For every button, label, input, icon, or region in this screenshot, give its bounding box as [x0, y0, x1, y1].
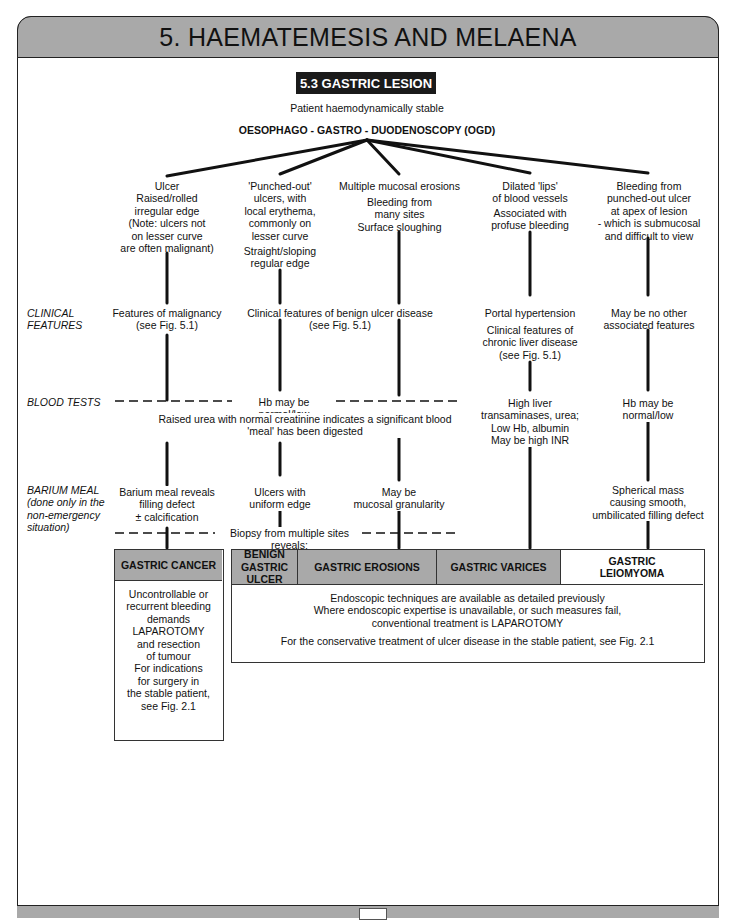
clinical-cancer: Features of malignancy (see Fig. 5.1) [97, 307, 237, 332]
clinical-varices-liver: Clinical features of chronic liver disea… [465, 324, 595, 361]
management-cancer: Uncontrollable or recurrent bleeding dem… [115, 588, 222, 712]
blood-varices: High liver transaminases, urea; Low Hb, … [460, 397, 600, 447]
management-shared-main: Endoscopic techniques are available as d… [232, 592, 703, 629]
blood-urea-shared: Raised urea with normal creatinine indic… [125, 413, 485, 438]
clinical-varices-portal: Portal hypertension [465, 307, 595, 319]
label-blood-tests: BLOOD TESTS [27, 396, 101, 408]
clinical-benign: Clinical features of benign ulcer diseas… [240, 307, 440, 332]
diagnosis-gastric-leiomyoma: GASTRIC LEIOMYOMA [561, 550, 703, 585]
finding-erosions-detail: Bleeding from many sites Surface sloughi… [337, 196, 462, 233]
blood-leiomyoma: Hb may be normal/low [598, 397, 698, 422]
gastric-cancer-box: GASTRIC CANCER Uncontrollable or recurre… [114, 549, 224, 741]
management-shared-note: For the conservative treatment of ulcer … [232, 635, 703, 647]
finding-varices: Dilated 'lips' of blood vessels [470, 180, 590, 205]
shared-management-box: BENIGN GASTRIC ULCER GASTRIC EROSIONS GA… [231, 549, 705, 663]
diagnosis-gastric-cancer: GASTRIC CANCER [115, 550, 222, 581]
barium-erosions: May be mucosal granularity [344, 486, 454, 511]
diagnosis-benign-ulcer: BENIGN GASTRIC ULCER [232, 550, 298, 585]
label-clinical-features: CLINICAL FEATURES [27, 307, 82, 332]
diagnosis-gastric-varices: GASTRIC VARICES [437, 550, 561, 585]
barium-leiomyoma: Spherical mass causing smooth, umbilicat… [583, 484, 713, 521]
finding-varices-detail: Associated with profuse bleeding [470, 207, 590, 232]
barium-benign: Ulcers with uniform edge [240, 486, 320, 511]
finding-leiomyoma: Bleeding from punched-out ulcer at apex … [588, 180, 710, 242]
diagnosis-gastric-erosions: GASTRIC EROSIONS [298, 550, 437, 585]
finding-punched-out-edge: Straight/sloping regular edge [225, 245, 335, 270]
finding-punched-out: 'Punched-out' ulcers, with local erythem… [225, 180, 335, 242]
clinical-leiomyoma: May be no other associated features [588, 307, 710, 332]
finding-ulcer: Ulcer Raised/rolled irregular edge (Note… [102, 180, 232, 254]
finding-erosions: Multiple mucosal erosions [327, 180, 472, 192]
page-number-box [359, 908, 387, 920]
label-barium-meal: BARIUM MEAL (done only in the non-emerge… [27, 484, 105, 534]
barium-cancer: Barium meal reveals filling defect ± cal… [107, 486, 227, 523]
